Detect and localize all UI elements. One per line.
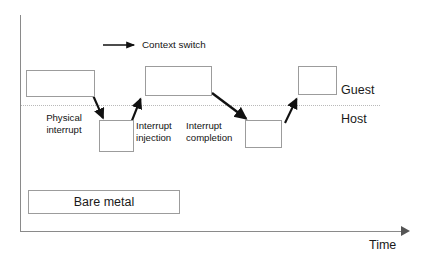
x-axis-arrowhead-icon (401, 226, 410, 236)
bare-metal-label: Bare metal (29, 196, 179, 209)
host-run-block-1 (99, 120, 134, 152)
guest-run-block-3 (298, 66, 337, 95)
bare-metal-block: Bare metal (28, 190, 180, 214)
x-axis-label-time: Time (369, 239, 396, 252)
annotation-physical-interrupt: Physical interrupt (33, 112, 95, 135)
guest-run-block-2 (145, 66, 212, 96)
x-axis-line (20, 231, 405, 232)
guest-host-divider-line (21, 105, 380, 106)
legend-label: Context switch (142, 40, 206, 50)
lane-label-host: Host (341, 113, 367, 126)
guest-run-block-1 (26, 70, 95, 97)
y-axis-line (20, 15, 21, 232)
annotation-interrupt-completion: Interrupt completion (186, 120, 244, 143)
host-run-block-2 (245, 120, 282, 148)
context-switch-arrow-4 (285, 99, 297, 123)
lane-label-guest: Guest (341, 84, 374, 97)
diagram-canvas: Context switch Bare metal Physical inter… (0, 0, 424, 263)
annotation-interrupt-injection: Interrupt injection (136, 120, 186, 143)
